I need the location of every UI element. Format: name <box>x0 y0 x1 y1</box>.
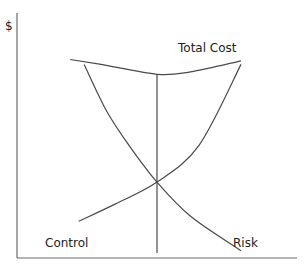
risk-label: Risk <box>233 236 258 250</box>
total-cost-label: Total Cost <box>177 41 237 55</box>
cost-control-risk-chart: $ Total Cost Control Risk <box>0 0 304 271</box>
total-cost-curve <box>70 60 241 75</box>
y-axis-label: $ <box>5 19 13 33</box>
risk-curve <box>79 64 241 221</box>
control-label: Control <box>45 236 88 250</box>
control-curve <box>84 64 241 250</box>
